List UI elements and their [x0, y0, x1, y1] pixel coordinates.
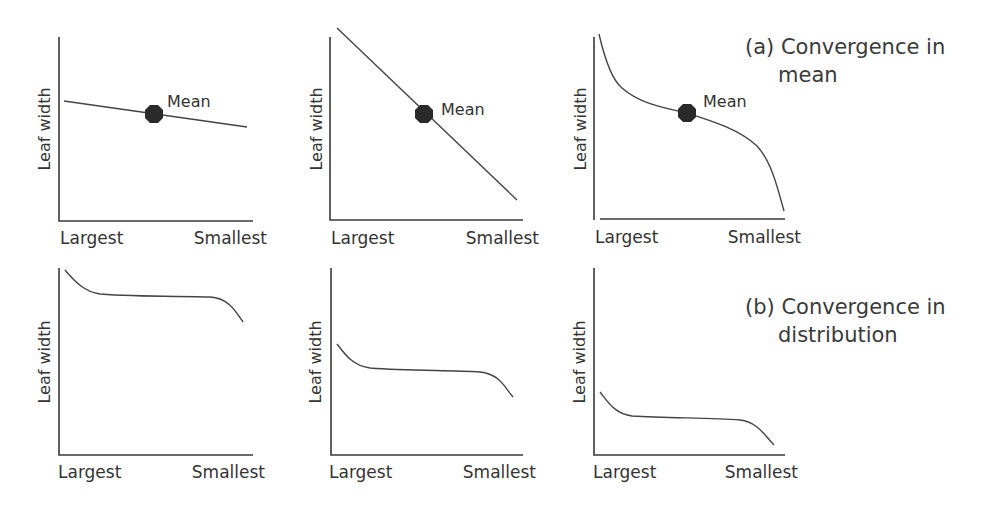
- x-tick-largest: Largest: [329, 462, 393, 482]
- y-axis-label: Leaf width: [306, 320, 325, 403]
- x-tick-smallest: Smallest: [194, 228, 268, 248]
- panel-a1: Mean Leaf width Largest Smallest: [35, 37, 267, 248]
- y-axis-label: Leaf width: [307, 87, 326, 170]
- mean-marker: [145, 105, 163, 123]
- mean-label: Mean: [167, 92, 211, 111]
- caption-convergence-in-mean: (a) Convergence in mean: [745, 33, 945, 89]
- y-axis-label: Leaf width: [35, 87, 54, 170]
- mean-marker: [415, 105, 433, 123]
- caption-a-line2: mean: [745, 61, 945, 89]
- caption-b-line1: (b) Convergence in: [745, 293, 946, 321]
- x-tick-largest: Largest: [58, 462, 122, 482]
- x-tick-smallest: Smallest: [728, 227, 802, 247]
- axes: [330, 37, 523, 220]
- x-tick-smallest: Smallest: [192, 462, 266, 482]
- caption-b-line2: distribution: [745, 321, 946, 349]
- data-curve: [337, 344, 513, 397]
- mean-label: Mean: [441, 100, 485, 119]
- x-tick-smallest: Smallest: [466, 228, 540, 248]
- data-curve: [600, 392, 774, 445]
- x-tick-largest: Largest: [593, 462, 657, 482]
- panel-b1: Leaf width Largest Smallest: [35, 268, 265, 482]
- caption-convergence-in-distribution: (b) Convergence in distribution: [745, 293, 946, 349]
- x-tick-largest: Largest: [331, 228, 395, 248]
- data-curve: [65, 270, 243, 322]
- x-tick-smallest: Smallest: [463, 462, 537, 482]
- x-tick-largest: Largest: [595, 227, 659, 247]
- axes: [59, 37, 253, 221]
- axes: [331, 268, 523, 455]
- y-axis-label: Leaf width: [571, 87, 590, 170]
- x-tick-smallest: Smallest: [725, 462, 799, 482]
- caption-a-line1: (a) Convergence in: [745, 33, 945, 61]
- panel-b2: Leaf width Largest Smallest: [306, 268, 536, 482]
- mean-label: Mean: [703, 92, 747, 111]
- x-tick-largest: Largest: [60, 228, 124, 248]
- panel-a2: Mean Leaf width Largest Smallest: [307, 28, 539, 248]
- y-axis-label: Leaf width: [35, 320, 54, 403]
- y-axis-label: Leaf width: [570, 320, 589, 403]
- mean-marker: [678, 104, 696, 122]
